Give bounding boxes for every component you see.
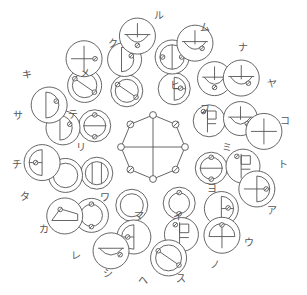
cell-outline [93,233,129,269]
kana-label-マ: マ [134,211,144,221]
ring-wheel-diagram [0,0,307,295]
kana-label-メ: メ [80,69,90,79]
kana-label-シ: シ [103,269,113,279]
kana-label-サ: サ [13,111,23,121]
kana-label-ク: ク [108,39,118,49]
outer-ring-cell-3 [246,113,282,149]
inner-ring-cell-6 [79,110,111,142]
figure-canvas: ルムナヤコトアウノスヘシレカタチサキメクヒフミヨイマワリテ [0,0,307,295]
inner-ring-cell-7 [111,75,143,107]
kana-label-ト: ト [278,160,288,170]
kana-label-ナ: ナ [238,43,248,53]
kana-label-ア: ア [267,206,277,216]
kana-label-ヤ: ヤ [267,79,277,89]
kana-label-タ: タ [20,192,30,202]
outer-ring-cell-0 [119,18,155,54]
outer-ring-cell-5 [204,217,240,253]
kana-label-ス: ス [176,274,186,284]
kana-label-カ: カ [39,225,49,235]
inner-ring-cell-5 [81,157,113,189]
kana-label-ヒ: ヒ [170,81,180,91]
kana-label-リ: リ [76,143,86,153]
kana-label-ム: ム [200,23,210,33]
kana-label-イ: イ [173,212,183,222]
center-node-4 [150,176,157,183]
kana-label-ウ: ウ [244,238,254,248]
outer-ring-cell-8 [47,198,83,234]
kana-label-キ: キ [22,70,32,80]
kana-label-レ: レ [71,251,81,261]
outer-ring-cell-9 [24,145,60,181]
center-motif [118,112,189,183]
outer-ring-cell-6 [151,240,187,276]
kana-label-ル: ル [154,11,164,21]
kana-label-テ: テ [68,110,78,120]
kana-label-ヘ: ヘ [138,276,148,286]
outer-ring-cell-7 [93,233,129,269]
kana-label-ノ: ノ [210,260,220,270]
outer-ring-cell-2 [223,60,259,96]
center-node-2 [182,144,189,151]
center-node-6 [118,144,125,151]
outer-ring-cell-10 [31,87,67,123]
kana-label-フ: フ [200,105,210,115]
kana-label-ヨ: ヨ [207,184,217,194]
kana-label-チ: チ [12,160,22,170]
kana-label-ワ: ワ [100,193,110,203]
kana-label-ミ: ミ [222,143,232,153]
outer-ring-cell-4 [239,171,275,207]
center-node-0 [150,112,157,119]
kana-label-コ: コ [280,116,290,126]
inner-ring-cell-2 [195,152,227,184]
